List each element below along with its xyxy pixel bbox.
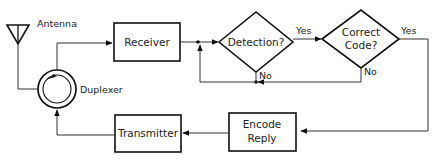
transmitter-label: Transmitter <box>117 127 179 139</box>
correct-code-label-line2: Code? <box>345 39 377 51</box>
encode-reply-label-line1: Encode <box>243 118 282 130</box>
code-no-arrow <box>258 68 361 82</box>
antenna-duplexer-line <box>18 44 38 89</box>
detection-yes-label: Yes <box>295 25 311 36</box>
code-yes-label: Yes <box>400 25 416 36</box>
transmitter-duplexer-arrow <box>57 110 115 135</box>
antenna-label: Antenna <box>37 18 77 29</box>
code-no-label: No <box>364 66 377 77</box>
antenna-icon <box>7 25 29 44</box>
junction-dot <box>196 40 200 44</box>
encode-reply-label-line2: Reply <box>247 132 276 144</box>
duplexer-icon <box>38 70 76 108</box>
block-diagram: Antenna Duplexer Receiver Detection? Yes… <box>0 0 436 164</box>
detection-no-label: No <box>259 70 272 81</box>
receiver-label: Receiver <box>124 36 170 48</box>
duplexer-label: Duplexer <box>80 84 123 95</box>
correct-code-label-line1: Correct <box>342 26 380 38</box>
duplexer-receiver-arrow <box>57 43 112 70</box>
detection-label: Detection? <box>228 36 285 48</box>
